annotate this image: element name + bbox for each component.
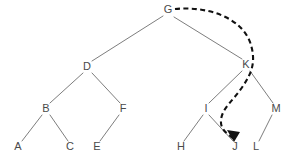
tree-node-a: A — [14, 140, 22, 152]
tree-edge-m-l — [259, 115, 272, 141]
tree-node-e: E — [93, 140, 100, 152]
tree-edge-d-b — [50, 73, 83, 103]
tree-edge-k-i — [209, 71, 242, 103]
tree-diagram-canvas: GDKBFIMACEHJL — [0, 0, 296, 164]
tree-edge-i-h — [184, 115, 203, 141]
tree-edge-layer — [22, 16, 273, 141]
tree-node-layer: GDKBFIMACEHJL — [14, 3, 280, 152]
tree-diagram-svg: GDKBFIMACEHJL — [0, 0, 296, 164]
tree-edge-i-j — [209, 115, 233, 141]
dashed-traversal-arrow — [175, 8, 253, 139]
tree-node-j: J — [232, 140, 238, 152]
tree-node-f: F — [120, 102, 127, 114]
tree-edge-k-m — [250, 71, 273, 103]
tree-node-h: H — [177, 140, 185, 152]
tree-edge-g-k — [174, 17, 242, 59]
tree-node-g: G — [164, 3, 173, 15]
tree-node-i: I — [204, 102, 207, 114]
tree-edge-f-e — [100, 115, 119, 141]
tree-node-k: K — [242, 58, 250, 70]
tree-edge-b-a — [22, 115, 42, 141]
tree-edge-b-c — [50, 115, 68, 141]
annotation-layer — [175, 8, 253, 142]
tree-node-d: D — [83, 60, 91, 72]
tree-edge-d-f — [92, 73, 120, 103]
tree-node-m: M — [271, 102, 280, 114]
tree-node-c: C — [66, 140, 74, 152]
tree-edge-g-d — [92, 16, 163, 61]
tree-node-b: B — [42, 102, 49, 114]
tree-node-l: L — [253, 140, 259, 152]
